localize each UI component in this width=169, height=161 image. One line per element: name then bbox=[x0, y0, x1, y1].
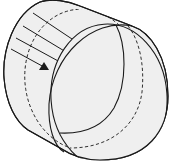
cylinder-svg bbox=[0, 0, 169, 161]
cylinder-diagram bbox=[0, 0, 169, 161]
